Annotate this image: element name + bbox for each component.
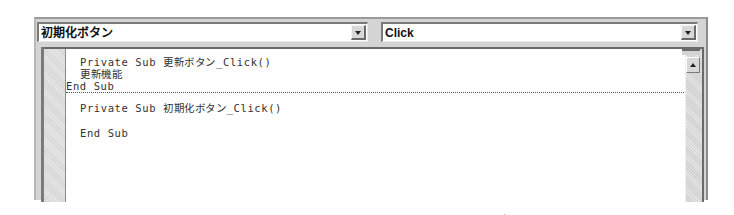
code-line[interactable]: 更新機能 — [80, 68, 684, 80]
code-line[interactable]: End Sub — [66, 80, 684, 93]
chevron-down-icon[interactable] — [681, 25, 696, 40]
code-editor[interactable]: Private Sub 更新ボタン_Click() 更新機能 End Sub P… — [42, 47, 704, 202]
object-combobox[interactable]: 初期化ボタン — [37, 22, 368, 42]
procedure-combobox-value: Click — [385, 25, 414, 41]
code-line[interactable] — [80, 114, 684, 127]
margin-indicator-bar[interactable] — [44, 49, 66, 202]
arrow-up-icon[interactable] — [686, 57, 700, 73]
vba-code-window: 初期化ボタン Click Private Sub 更新ボタン_Click() 更… — [34, 17, 708, 200]
code-line[interactable]: End Sub — [80, 127, 684, 139]
code-lines: Private Sub 更新ボタン_Click() 更新機能 End Sub P… — [80, 56, 684, 139]
split-bar[interactable] — [682, 49, 700, 55]
vertical-scrollbar[interactable] — [685, 49, 704, 202]
chevron-down-icon[interactable] — [351, 25, 366, 40]
object-combobox-value: 初期化ボタン — [41, 25, 113, 41]
procedure-combobox[interactable]: Click — [381, 22, 698, 42]
code-line[interactable]: Private Sub 初期化ボタン_Click() — [80, 102, 684, 114]
code-line[interactable]: Private Sub 更新ボタン_Click() — [80, 56, 684, 68]
cursor-mark — [504, 214, 505, 215]
